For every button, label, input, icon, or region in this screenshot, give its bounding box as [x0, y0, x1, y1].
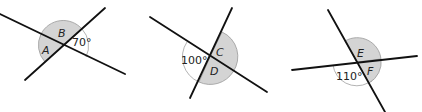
label-c: C	[216, 46, 224, 59]
line-2	[25, 8, 105, 80]
label-70: 70°	[72, 36, 92, 49]
label-e: E	[357, 47, 364, 60]
diagram-3: E F 110°	[292, 10, 417, 112]
label-100: 100°	[181, 54, 208, 67]
label-a: A	[41, 44, 50, 57]
label-f: F	[367, 65, 374, 78]
angles-figure: A B 70° 100° C D E F 110°	[0, 0, 422, 112]
label-d: D	[210, 65, 218, 78]
diagram-1: A B 70°	[0, 8, 125, 80]
diagram-2: 100° C D	[150, 8, 267, 98]
label-110: 110°	[336, 70, 363, 83]
label-b: B	[58, 27, 66, 40]
